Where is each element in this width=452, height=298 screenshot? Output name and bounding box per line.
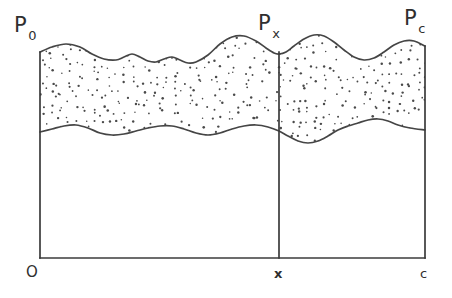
- label-p-zero: P0: [14, 13, 36, 40]
- label-p-c-subscript: c: [418, 21, 426, 36]
- label-p-x-base: P: [258, 11, 271, 35]
- axis-label-origin: O: [26, 263, 38, 281]
- label-p-x-subscript: x: [272, 26, 280, 41]
- axis-label-x: x: [274, 266, 282, 281]
- axis-label-c: c: [420, 266, 427, 281]
- label-p-c: Pc: [404, 6, 425, 33]
- diagram-canvas: [0, 0, 452, 298]
- label-p-c-base: P: [404, 6, 417, 30]
- label-p-zero-subscript: 0: [28, 28, 37, 43]
- label-p-zero-base: P: [14, 13, 27, 37]
- stippled-band-region: [40, 35, 425, 143]
- label-p-x: Px: [258, 11, 279, 38]
- figure-container: P0 Px Pc O x c: [0, 0, 452, 298]
